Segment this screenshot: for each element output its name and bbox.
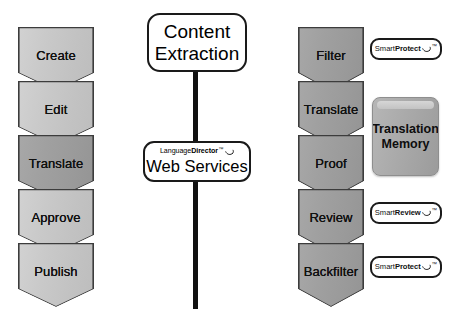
web-services-title: Web Services — [146, 158, 247, 175]
translation-memory-label: Translation Memory — [372, 122, 439, 151]
translation-memory-highlight — [377, 101, 434, 109]
workflow-step-label: Publish — [34, 264, 77, 286]
content-extraction-box[interactable]: Content Extraction — [147, 13, 247, 72]
smartprotect-top-chip[interactable]: SmartProtect ™ — [370, 38, 442, 60]
translation-step-label: Translate — [304, 102, 359, 124]
translation-step-label: Backfilter — [304, 264, 358, 286]
product-label: SmartProtect ™ — [375, 45, 437, 54]
trademark-symbol: ™ — [432, 262, 437, 267]
translation-step-backfilter[interactable]: Backfilter — [298, 243, 364, 307]
trademark-symbol: ™ — [218, 147, 223, 152]
translation-workflow-column: Filter Translate Proof Review Backfilter — [298, 27, 364, 307]
logo-text-bold: Director — [191, 148, 218, 155]
logo-text-regular: Language — [160, 148, 191, 155]
translation-step-label: Review — [309, 210, 352, 232]
workflow-diagram: Create Edit Translate Approve Publish Co… — [0, 0, 462, 327]
smartreview-chip[interactable]: SmartReview ™ — [370, 202, 442, 224]
web-services-box[interactable]: LanguageDirector™ Web Services — [143, 141, 251, 182]
content-extraction-line-1: Content — [164, 21, 231, 42]
product-name-regular: Smart — [375, 209, 395, 217]
authoring-workflow-column: Create Edit Translate Approve Publish — [18, 27, 94, 307]
swoosh-icon — [225, 149, 234, 158]
swoosh-icon — [422, 210, 431, 219]
translation-memory-line-1: Translation — [372, 122, 439, 137]
product-label: SmartReview ™ — [375, 209, 437, 218]
content-extraction-line-2: Extraction — [155, 43, 239, 64]
workflow-step-label: Create — [36, 48, 76, 70]
swoosh-icon — [422, 46, 431, 55]
workflow-step-label: Approve — [31, 210, 80, 232]
translation-memory-box[interactable]: Translation Memory — [372, 97, 439, 176]
product-label: SmartProtect ™ — [375, 263, 437, 272]
swoosh-icon — [422, 264, 431, 273]
workflow-step-label: Translate — [29, 156, 84, 178]
product-name-regular: Smart — [375, 263, 395, 271]
product-name-bold: Review — [395, 209, 421, 217]
translation-memory-line-2: Memory — [372, 137, 439, 152]
dashed-connector-line — [193, 66, 198, 309]
product-name-bold: Protect — [395, 263, 421, 271]
workflow-step-publish[interactable]: Publish — [18, 243, 94, 307]
translation-step-label: Filter — [316, 48, 346, 70]
trademark-symbol: ™ — [432, 208, 437, 213]
translation-step-label: Proof — [315, 156, 347, 178]
product-name-bold: Protect — [395, 45, 421, 53]
languagedirector-logo: LanguageDirector™ — [160, 148, 234, 157]
trademark-symbol: ™ — [432, 44, 437, 49]
smartprotect-bottom-chip[interactable]: SmartProtect ™ — [370, 256, 442, 278]
workflow-step-label: Edit — [45, 102, 68, 124]
product-name-regular: Smart — [375, 45, 395, 53]
